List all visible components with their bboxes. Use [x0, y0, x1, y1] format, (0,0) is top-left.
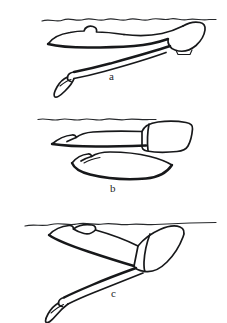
torso-underside-a — [48, 39, 168, 48]
upper-leg-top-b — [52, 131, 142, 144]
torso-lower-edge-c — [68, 273, 143, 304]
hip-shorts-outline-c — [134, 226, 184, 272]
raised-foot-detail-c — [74, 229, 96, 234]
panel-label-b: b — [110, 183, 116, 194]
torso-upper-edge-c — [64, 268, 136, 298]
head-and-arm-outline-a — [48, 26, 124, 44]
panel-c — [0, 200, 227, 323]
upper-leg-bottom-b — [52, 144, 146, 147]
figure-root: a b — [0, 0, 227, 323]
hip-shorts-outline-a — [168, 22, 205, 51]
foot-outline-c — [46, 303, 68, 323]
leg-lower-edge-a — [74, 53, 166, 79]
upper-leg-toe-b — [67, 138, 76, 142]
panel-a — [0, 0, 227, 105]
water-surface-line-c — [25, 223, 216, 227]
shorts-crease-b — [147, 124, 149, 151]
leg-upper-edge-a — [74, 46, 170, 72]
leg-lower-contour-c — [49, 235, 134, 266]
panel-label-a: a — [109, 71, 114, 82]
water-surface-line-a — [42, 19, 216, 21]
panel-label-c: c — [111, 288, 116, 299]
torso-upper-a — [124, 26, 183, 36]
lower-leg-bottom-b — [72, 163, 172, 179]
water-surface-line-b — [38, 119, 156, 120]
